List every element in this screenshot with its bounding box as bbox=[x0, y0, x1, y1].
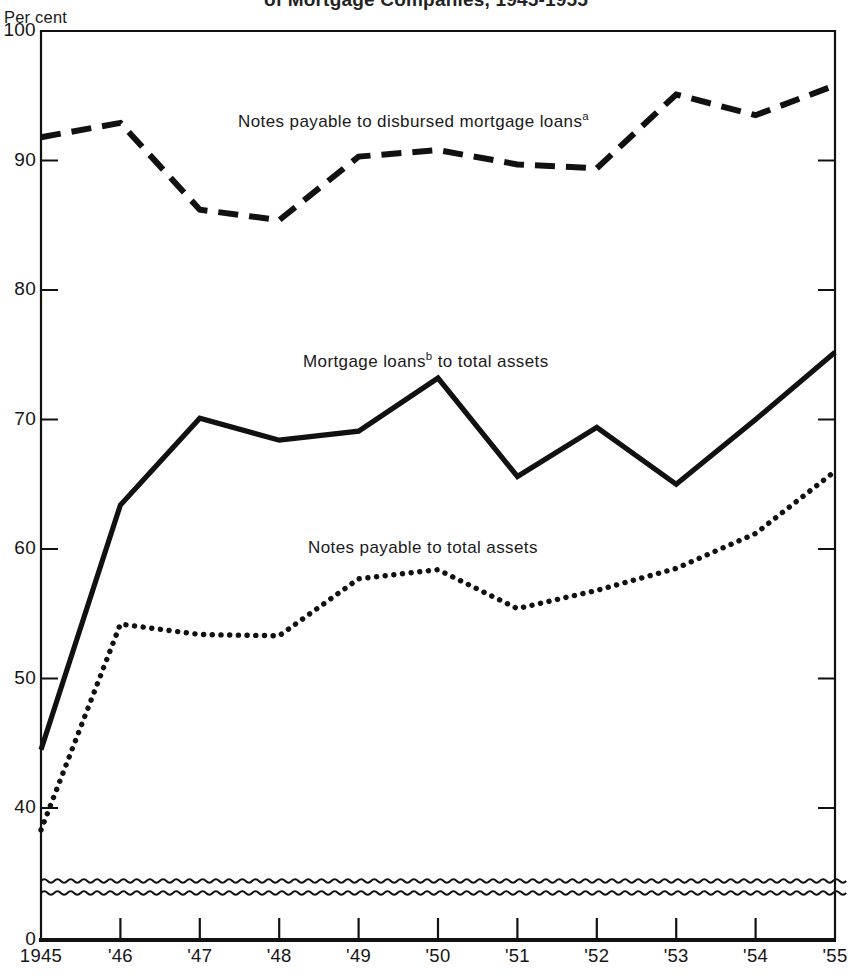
y-tick-label: 70 bbox=[0, 408, 36, 430]
x-tick-label: '52 bbox=[562, 945, 632, 967]
x-tick-label: '47 bbox=[165, 945, 235, 967]
x-tick-label: 1945 bbox=[6, 945, 76, 967]
x-tick-label: '53 bbox=[641, 945, 711, 967]
x-tick-label: '54 bbox=[721, 945, 791, 967]
y-tick-label: 90 bbox=[0, 149, 36, 171]
x-tick-label: '50 bbox=[403, 945, 473, 967]
x-tick-label: '46 bbox=[85, 945, 155, 967]
x-tick-label: '48 bbox=[244, 945, 314, 967]
y-tick-label: 100 bbox=[0, 19, 36, 41]
series-label-solid: Mortgage loansb to total assets bbox=[303, 352, 549, 372]
chart-figure: of Mortgage Companies, 1945-1955 Per cen… bbox=[0, 0, 852, 980]
chart-plot-area bbox=[0, 0, 852, 980]
series-label-dotted: Notes payable to total assets bbox=[308, 538, 538, 558]
y-tick-label: 80 bbox=[0, 278, 36, 300]
x-tick-label: '51 bbox=[482, 945, 552, 967]
x-tick-label: '55 bbox=[800, 945, 852, 967]
y-tick-label: 40 bbox=[0, 796, 36, 818]
y-tick-label: 60 bbox=[0, 537, 36, 559]
y-tick-label: 50 bbox=[0, 667, 36, 689]
x-tick-label: '49 bbox=[324, 945, 394, 967]
series-label-dashed: Notes payable to disbursed mortgage loan… bbox=[238, 112, 589, 132]
